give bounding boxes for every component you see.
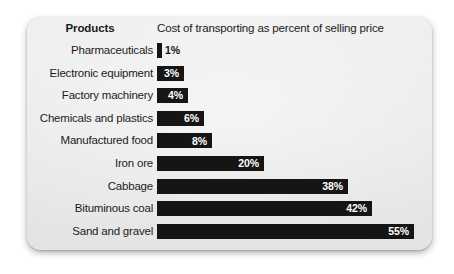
bar: 4% — [157, 88, 188, 103]
category-label: Cabbage — [108, 180, 153, 192]
bar-value-label: 20% — [238, 158, 259, 169]
bar: 38% — [157, 179, 348, 194]
bar-track: 1% — [157, 42, 428, 65]
bar-value-label: 8% — [192, 136, 207, 147]
category-label: Pharmaceuticals — [71, 44, 153, 56]
bar-track: 8% — [157, 132, 428, 155]
chart-rows: Pharmaceuticals1%Electronic equipment3%F… — [27, 42, 432, 245]
chart-row: Factory machinery4% — [27, 87, 432, 110]
bar: 20% — [157, 156, 264, 171]
bar-value-label: 6% — [184, 113, 199, 124]
bar: 55% — [157, 224, 414, 239]
bar: 6% — [157, 111, 204, 126]
chart-row: Iron ore20% — [27, 155, 432, 178]
bar-value-label: 42% — [346, 203, 367, 214]
chart-title: Cost of transporting as percent of selli… — [157, 22, 384, 34]
horizontal-bar-chart: Products Cost of transporting as percent… — [27, 17, 432, 250]
bar-track: 3% — [157, 65, 428, 88]
bar-value-label: 4% — [168, 90, 183, 101]
bar-track: 20% — [157, 155, 428, 178]
chart-row: Pharmaceuticals1% — [27, 42, 432, 65]
bar-value-label: 55% — [388, 226, 409, 237]
column-header-products: Products — [27, 22, 153, 34]
chart-card: Products Cost of transporting as percent… — [27, 17, 432, 250]
bar-track: 6% — [157, 110, 428, 133]
chart-row: Bituminous coal42% — [27, 200, 432, 223]
chart-row: Cabbage38% — [27, 178, 432, 201]
chart-header-row: Products Cost of transporting as percent… — [27, 22, 432, 42]
bar-track: 42% — [157, 200, 428, 223]
bar-value-label: 3% — [164, 68, 179, 79]
bar-value-label: 1% — [165, 43, 180, 58]
category-label: Iron ore — [115, 157, 153, 169]
chart-row: Sand and gravel55% — [27, 223, 432, 246]
bar-track: 4% — [157, 87, 428, 110]
category-label: Chemicals and plastics — [40, 112, 153, 124]
category-label: Electronic equipment — [50, 67, 153, 79]
page-root: Products Cost of transporting as percent… — [0, 0, 454, 274]
category-label: Sand and gravel — [72, 225, 153, 237]
chart-row: Manufactured food8% — [27, 132, 432, 155]
bar-track: 38% — [157, 178, 428, 201]
category-label: Manufactured food — [61, 134, 154, 146]
bar — [157, 43, 162, 58]
bar: 42% — [157, 201, 372, 216]
category-label: Factory machinery — [62, 89, 153, 101]
bar-value-label: 38% — [322, 181, 343, 192]
bar-track: 55% — [157, 223, 428, 246]
category-label: Bituminous coal — [75, 202, 153, 214]
bar: 3% — [157, 66, 184, 81]
chart-row: Electronic equipment3% — [27, 65, 432, 88]
chart-row: Chemicals and plastics6% — [27, 110, 432, 133]
bar: 8% — [157, 133, 212, 148]
